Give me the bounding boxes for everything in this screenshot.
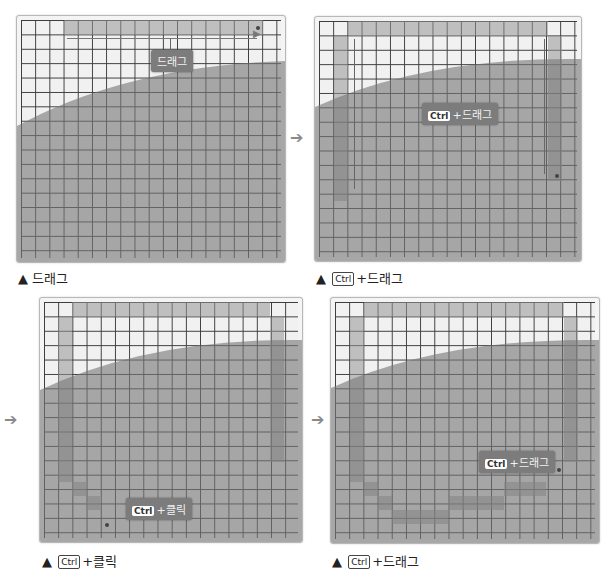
- caption-ctrl-click: ▲ Ctrl+클릭: [42, 551, 117, 570]
- action-badge: Ctrl+클릭: [126, 498, 192, 520]
- cursor-point: [557, 468, 561, 472]
- caption-ctrl-drag: ▲ Ctrl+드래그: [316, 268, 403, 287]
- next-arrow-icon: ➔: [290, 128, 303, 147]
- drag-arrow-left: [354, 39, 355, 189]
- next-arrow-icon: ➔: [4, 410, 17, 429]
- ctrl-key: Ctrl: [428, 111, 450, 121]
- action-badge: 드래그: [151, 50, 193, 72]
- ctrl-key: Ctrl: [485, 459, 507, 469]
- drag-arrow-line: [67, 38, 257, 39]
- ctrl-key: Ctrl: [132, 506, 154, 516]
- ctrl-key: Ctrl: [58, 555, 80, 569]
- panel-ctrl-drag-2: Ctrl+드래그: [330, 297, 600, 544]
- panel-ctrl-click: Ctrl+클릭: [39, 297, 303, 543]
- caption-drag: ▲ 드래그: [18, 268, 68, 287]
- cursor-point: [105, 523, 109, 527]
- action-badge: Ctrl+드래그: [422, 103, 498, 125]
- next-arrow-icon: ➔: [311, 410, 324, 429]
- drag-arrow-right: [544, 39, 545, 174]
- cursor-point: [555, 174, 559, 178]
- overlay-area: [331, 298, 599, 543]
- caption-ctrl-drag-2: ▲ Ctrl+드래그: [332, 551, 419, 570]
- action-badge: Ctrl+드래그: [479, 451, 555, 473]
- ctrl-key: Ctrl: [332, 272, 354, 286]
- panel-drag: ▶ 드래그: [16, 15, 286, 263]
- cursor-point: [256, 26, 260, 30]
- ctrl-key: Ctrl: [348, 555, 370, 569]
- panel-ctrl-drag: Ctrl+드래그: [314, 16, 582, 262]
